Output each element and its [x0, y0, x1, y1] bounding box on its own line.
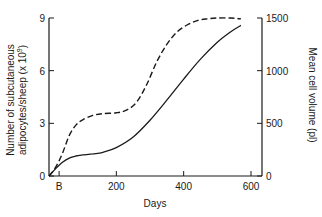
- y-tick-label: 0: [39, 171, 45, 182]
- y2-tick-label: 0: [266, 171, 272, 182]
- y-tick-label: 6: [39, 66, 45, 77]
- series-mean-cell-volume-line: [49, 25, 241, 176]
- x-tick-label: 400: [175, 181, 192, 192]
- y2-tick-label: 1500: [266, 13, 289, 24]
- y2-axis-label: Mean cell volume (pl): [307, 47, 318, 142]
- y2-tick-label: 1000: [266, 66, 289, 77]
- x-axis-label: Days: [144, 198, 167, 209]
- plot-area: B2004006000369050010001500: [39, 13, 288, 192]
- ticks: B2004006000369050010001500: [39, 13, 288, 192]
- y-axis-label-line2: adipocytes/sheep (x 109): [16, 45, 28, 155]
- y-axis-label-line1: Number of subcutaneous: [5, 44, 16, 156]
- x-tick-label: 200: [108, 181, 125, 192]
- y2-tick-label: 500: [266, 118, 283, 129]
- y-tick-label: 9: [39, 13, 45, 24]
- series-cell-number-line: [49, 18, 241, 176]
- y-tick-label: 3: [39, 118, 45, 129]
- y-axis-label: Number of subcutaneous adipocytes/sheep …: [5, 44, 28, 156]
- x-tick-label: B: [56, 181, 63, 192]
- x-tick-label: 600: [243, 181, 260, 192]
- chart: B2004006000369050010001500 Days Number o…: [0, 0, 322, 217]
